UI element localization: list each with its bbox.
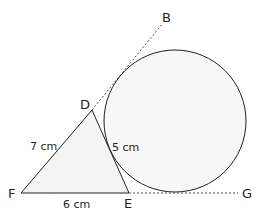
label-f: F xyxy=(8,186,15,201)
label-e: E xyxy=(124,196,132,211)
label-d: D xyxy=(80,97,90,112)
diagram-canvas: B D F E G 7 cm 5 cm 6 cm xyxy=(0,0,262,216)
circle xyxy=(104,50,246,192)
label-g: G xyxy=(242,186,252,201)
measure-fe: 6 cm xyxy=(63,198,90,211)
measure-de: 5 cm xyxy=(112,141,139,154)
geometry-diagram: B D F E G 7 cm 5 cm 6 cm xyxy=(0,0,262,216)
measure-df: 7 cm xyxy=(30,140,57,153)
label-b: B xyxy=(162,10,171,25)
